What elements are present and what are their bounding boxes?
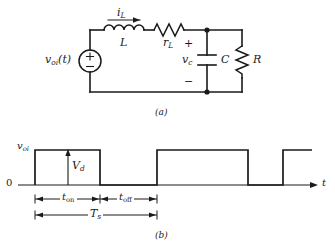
waveform-plot: [18, 149, 318, 220]
dim-arrowhead-ts-left: [36, 213, 43, 218]
dim-label-ton: ton: [60, 192, 77, 204]
waveform-origin-label: 0: [6, 178, 12, 188]
current-label-il: iL: [117, 7, 126, 20]
waveform-y-axis-label: voi: [17, 141, 29, 153]
load-resistor-label: R: [253, 54, 261, 65]
caption-panel-a: (a): [155, 107, 167, 117]
inductor-label: L: [120, 37, 127, 48]
source-plus-mark: [87, 53, 94, 60]
capacitor-minus-sign: −: [184, 76, 193, 87]
dim-arrowhead-toff-left: [101, 197, 108, 202]
inductor-symbol: [104, 25, 144, 30]
source-label: voi(t): [45, 54, 71, 67]
dim-arrowhead-toff-right: [149, 197, 156, 202]
dim-label-ts: Ts: [88, 208, 103, 221]
dim-label-toff: toff: [117, 192, 134, 204]
waveform-time-axis-arrow: [310, 182, 318, 188]
junction-dot-bottom: [204, 89, 209, 94]
dim-arrowhead-ton-left: [36, 197, 43, 202]
dim-arrowhead-ton-right: [92, 197, 99, 202]
amplitude-label-vd: Vd: [72, 160, 85, 173]
resistor-rl-label: rL: [163, 37, 173, 50]
resistor-rl-symbol: [154, 24, 184, 36]
junction-dot-top: [204, 27, 209, 32]
caption-panel-b: (b): [155, 230, 168, 240]
capacitor-voltage-label: vc: [182, 54, 192, 67]
current-arrow-il-head: [133, 17, 140, 22]
capacitor-label: C: [221, 54, 229, 65]
dim-arrowhead-ts-right: [149, 213, 156, 218]
waveform-x-axis-label: t: [322, 178, 326, 188]
resistor-r-symbol: [236, 46, 248, 78]
capacitor-plus-sign: +: [184, 38, 193, 49]
